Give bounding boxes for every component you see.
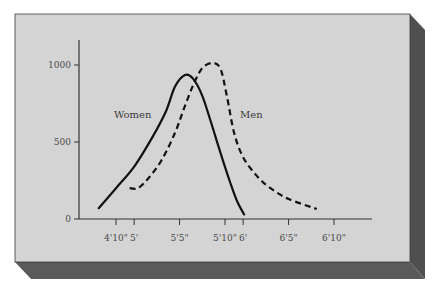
x-tick-label: 5': [130, 233, 138, 243]
x-tick-label: 6': [239, 233, 247, 243]
men-label: Men: [240, 109, 263, 120]
x-tick-label: 5'10": [213, 233, 237, 243]
x-tick-label: 6'5": [280, 233, 298, 243]
x-tick-label: 4'10": [104, 233, 128, 243]
chart-canvas: 05001000 4'10"5'5'5"5'10"6'6'5"6'10" Wom…: [0, 0, 441, 300]
card-right-face: [410, 14, 425, 279]
y-tick-label: 1000: [48, 60, 71, 70]
y-tick-label: 500: [54, 137, 71, 147]
y-tick-label: 0: [65, 214, 71, 224]
women-label: Women: [114, 109, 152, 120]
x-tick-label: 5'5": [171, 233, 189, 243]
card-bottom-face: [15, 262, 425, 279]
x-tick-label: 6'10": [322, 233, 346, 243]
card-front: [15, 14, 410, 262]
